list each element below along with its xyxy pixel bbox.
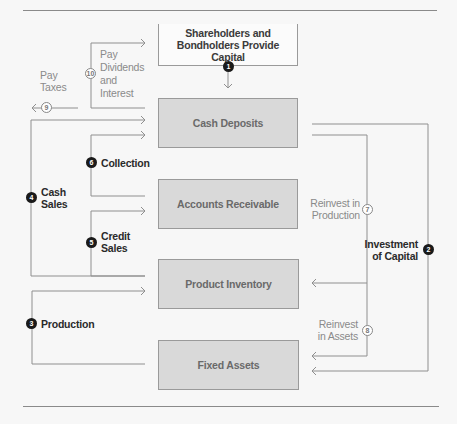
flow-badge-10: 10 [85,68,96,79]
reinvest-assets-label: Reinvest in Assets [310,318,358,342]
credit-sales-line-2: Sales [101,242,130,254]
credit-sales-line-1: Credit [101,230,130,242]
accounts-receivable-box: Accounts Receivable [158,179,298,229]
fixed-assets-box: Fixed Assets [158,340,299,390]
product-inventory-box: Product Inventory [158,259,299,309]
pay-taxes-label: Pay Taxes [40,69,66,93]
credit-sales-label: Credit Sales [101,230,130,254]
dividends-line-4: Interest [100,87,144,100]
reinvest-assets-line-2: in Assets [310,330,358,342]
flow-badge-4: 4 [26,192,37,203]
flow-badge-8: 8 [362,325,373,336]
fixed-assets-label: Fixed Assets [198,359,260,371]
reinvest-prod-line-1: Reinvest in [306,197,360,209]
pay-taxes-line-1: Pay [40,69,66,81]
pay-taxes-line-2: Taxes [40,81,66,93]
accounts-receivable-label: Accounts Receivable [177,198,279,210]
flow-badge-3: 3 [26,318,37,329]
reinvest-production-label: Reinvest in Production [306,197,360,221]
investment-of-capital-label: Investment of Capital [360,238,418,262]
flow-badge-2: 2 [423,244,434,255]
flow-badge-5: 5 [86,237,97,248]
production-label: Production [41,318,94,330]
dividends-line-2: Dividends [100,61,144,74]
cash-deposits-label: Cash Deposits [193,117,263,129]
dividends-line-1: Pay [100,48,144,61]
reinvest-assets-line-1: Reinvest [310,318,358,330]
flow-badge-7: 7 [362,204,373,215]
pay-dividends-label: Pay Dividends and Interest [100,48,144,100]
investment-line-1: Investment [360,238,418,250]
product-inventory-label: Product Inventory [185,278,271,290]
collection-label: Collection [101,157,150,169]
cash-sales-line-1: Cash [41,186,67,198]
shareholders-box: Shareholders and Bondholders Provide Cap… [158,24,298,66]
dividends-line-3: and [100,74,144,87]
reinvest-prod-line-2: Production [306,209,360,221]
shareholders-label: Shareholders and Bondholders Provide Cap… [159,27,297,63]
cash-deposits-box: Cash Deposits [158,98,298,148]
flow-badge-1: 1 [223,61,234,72]
flow-badge-6: 6 [86,157,97,168]
flow-badge-9: 9 [41,102,52,113]
cash-sales-line-2: Sales [41,198,67,210]
investment-line-2: of Capital [360,250,418,262]
cash-sales-label: Cash Sales [41,186,67,210]
